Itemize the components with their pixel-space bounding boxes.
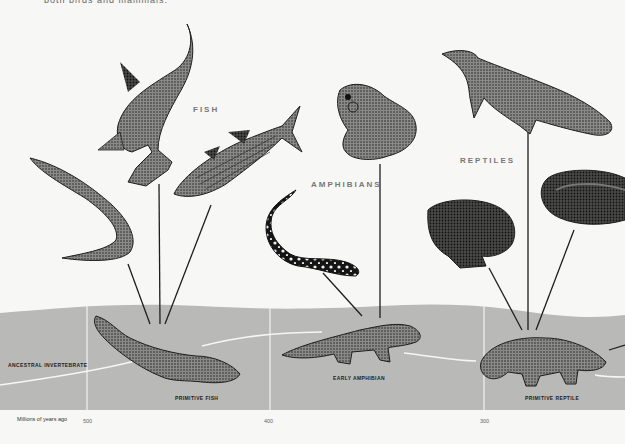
stage-label-ancestral-invertebrate: ANCESTRAL INVERTEBRATE bbox=[8, 362, 87, 368]
turtle-illustration bbox=[428, 200, 515, 268]
stage-label-primitive-reptile: PRIMITIVE REPTILE bbox=[525, 395, 579, 401]
hammerhead-shark-illustration bbox=[98, 24, 193, 186]
group-label-fish: FISH bbox=[193, 105, 219, 114]
stage-label-primitive-fish: PRIMITIVE FISH bbox=[175, 395, 218, 401]
spotted-salamander-illustration bbox=[266, 190, 359, 276]
axis-tick-400: 400 bbox=[264, 418, 273, 424]
striped-bass-illustration bbox=[174, 106, 302, 196]
axis-tick-500: 500 bbox=[83, 418, 92, 424]
frog-illustration bbox=[338, 84, 417, 159]
diagram-graphics bbox=[0, 0, 625, 444]
eel-illustration bbox=[30, 158, 133, 260]
group-label-reptiles: REPTILES bbox=[460, 156, 515, 165]
group-label-amphibians: AMPHIBIANS bbox=[311, 180, 382, 189]
axis-title: Millions of years ago bbox=[17, 416, 67, 422]
crocodile-illustration bbox=[442, 51, 612, 136]
snake-illustration bbox=[541, 170, 625, 224]
axis-tick-300: 300 bbox=[480, 418, 489, 424]
evolution-diagram: both birds and mammals. bbox=[0, 0, 625, 444]
stage-label-early-amphibian: EARLY AMPHIBIAN bbox=[333, 375, 385, 381]
